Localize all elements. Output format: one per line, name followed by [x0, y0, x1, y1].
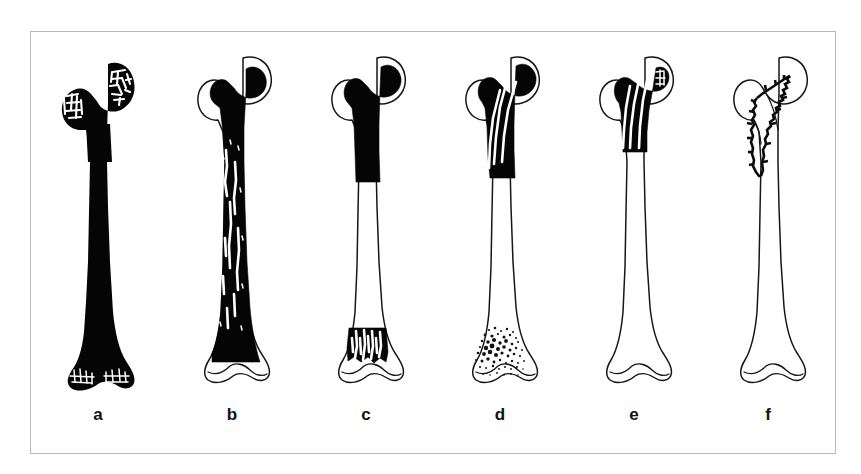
panel-label-c: c: [361, 406, 370, 423]
femur-diagram-c: [302, 32, 430, 392]
femur-diagram-a: [34, 32, 162, 392]
femur-c-shape: [332, 57, 405, 383]
femur-diagram-b: [168, 32, 296, 392]
panel-label-d: d: [495, 406, 505, 423]
femur-diagram-f: [704, 32, 832, 392]
panel-label-e: e: [629, 406, 638, 423]
femur-panel-d: d: [436, 32, 564, 453]
femur-a-shape: [62, 63, 135, 391]
femur-panel-b: b: [168, 32, 296, 453]
femur-diagram-d: [436, 32, 564, 392]
figure-root: a: [0, 0, 861, 474]
femur-panel-row: a: [31, 32, 835, 453]
panel-label-a: a: [93, 406, 102, 423]
femur-d-shape: [466, 57, 539, 383]
femur-e-shape: [600, 57, 673, 383]
femur-panel-c: c: [302, 32, 430, 453]
femur-b-shape: [198, 57, 271, 383]
panel-label-f: f: [765, 406, 771, 423]
femur-e-head-mesh: [656, 70, 665, 86]
femur-panel-e: e: [570, 32, 698, 453]
femur-f-shape: [734, 57, 807, 383]
femur-panel-f: f: [704, 32, 832, 453]
femur-panel-a: a: [34, 32, 162, 453]
panel-label-b: b: [227, 406, 237, 423]
femur-diagram-e: [570, 32, 698, 392]
figure-frame: a: [30, 31, 836, 454]
